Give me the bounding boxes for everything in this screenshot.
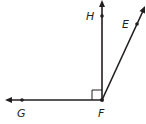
angle-diagram: H E G F bbox=[0, 0, 146, 124]
point-g bbox=[20, 98, 24, 102]
arrowhead-g-icon bbox=[5, 97, 12, 103]
point-f bbox=[100, 98, 104, 102]
label-f: F bbox=[98, 107, 105, 120]
label-e: E bbox=[122, 18, 129, 31]
arrowhead-h-icon bbox=[99, 0, 105, 7]
right-angle-marker bbox=[92, 90, 102, 100]
label-h: H bbox=[86, 10, 94, 23]
point-e bbox=[135, 22, 139, 26]
point-h bbox=[100, 14, 104, 18]
label-g: G bbox=[17, 107, 26, 120]
